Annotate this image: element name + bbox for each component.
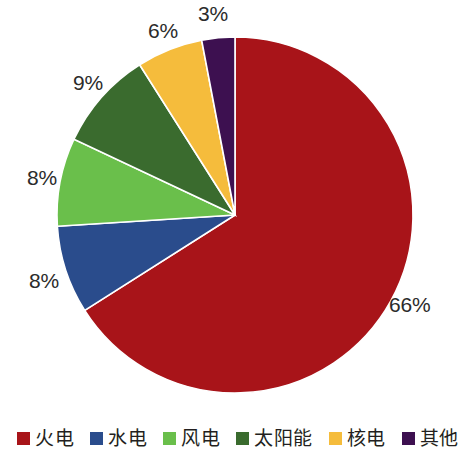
slice-label-thermal: 66%: [389, 294, 430, 315]
legend-item-label: 火电: [35, 429, 74, 448]
pie-svg: [0, 0, 476, 412]
legend-swatch-icon: [163, 432, 176, 445]
legend-item[interactable]: 风电: [163, 429, 220, 448]
legend-item[interactable]: 火电: [17, 429, 74, 448]
slice-label-nuclear: 6%: [148, 20, 178, 41]
legend-item-label: 其他: [420, 429, 459, 448]
pie-chart: 66% 8% 8% 9% 6% 3% 火电水电风电太阳能核电其他: [0, 0, 476, 453]
legend-item[interactable]: 水电: [90, 429, 147, 448]
legend-item[interactable]: 核电: [329, 429, 386, 448]
legend-swatch-icon: [17, 432, 30, 445]
legend-item[interactable]: 其他: [402, 429, 459, 448]
slice-label-solar: 9%: [73, 72, 103, 93]
chart-legend: 火电水电风电太阳能核电其他: [0, 424, 476, 453]
pie-plot-area: 66% 8% 8% 9% 6% 3%: [0, 0, 476, 412]
legend-swatch-icon: [329, 432, 342, 445]
pie-slice-group: [57, 37, 413, 393]
slice-label-wind: 8%: [27, 167, 57, 188]
legend-item-label: 水电: [108, 429, 147, 448]
legend-item[interactable]: 太阳能: [236, 429, 313, 448]
legend-item-label: 风电: [181, 429, 220, 448]
legend-swatch-icon: [402, 432, 415, 445]
slice-label-other: 3%: [198, 3, 228, 24]
legend-swatch-icon: [90, 432, 103, 445]
legend-item-label: 核电: [347, 429, 386, 448]
legend-swatch-icon: [236, 432, 249, 445]
legend-item-label: 太阳能: [254, 429, 313, 448]
slice-label-hydro: 8%: [29, 270, 59, 291]
